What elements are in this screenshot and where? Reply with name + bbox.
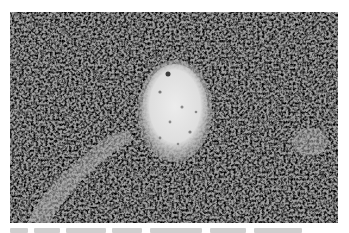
figure-caption-truncated: [10, 227, 338, 233]
right-pale-patch: [292, 128, 328, 156]
caption-word-fragment: [254, 228, 302, 233]
tissue-texture: [10, 12, 338, 223]
caption-word-fragment: [34, 228, 60, 233]
central-vessel-lumen: [138, 60, 212, 162]
caption-word-fragment: [10, 228, 28, 233]
caption-word-fragment: [66, 228, 106, 233]
caption-word-fragment: [150, 228, 202, 233]
caption-word-fragment: [112, 228, 142, 233]
micrograph-image: [10, 12, 338, 223]
figure-page: [0, 0, 349, 233]
caption-word-fragment: [210, 228, 246, 233]
